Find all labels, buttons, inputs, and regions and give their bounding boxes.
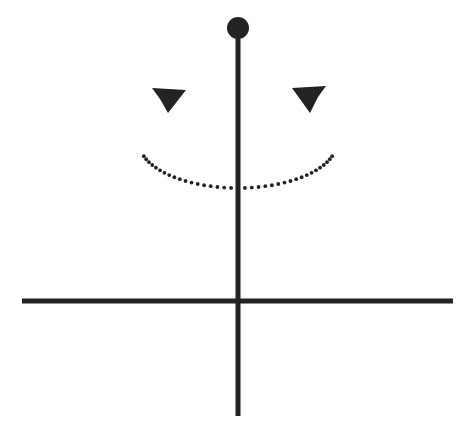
arc-dot <box>222 186 226 190</box>
arc-dot <box>209 184 213 188</box>
canvas-background <box>0 0 466 432</box>
arc-dot <box>178 177 182 181</box>
arc-dot <box>314 168 318 172</box>
bob-sphere <box>227 17 249 39</box>
arc-dot <box>322 163 326 167</box>
arc-dot <box>318 166 322 170</box>
arc-dot <box>144 157 148 161</box>
arc-dot <box>283 181 287 185</box>
arc-dot <box>154 166 158 170</box>
arc-dot <box>190 181 194 185</box>
arc-dot <box>196 182 200 186</box>
arc-dot <box>270 183 274 187</box>
arc-dot <box>216 185 220 189</box>
diagram-svg <box>0 0 466 432</box>
arc-dot <box>310 171 314 175</box>
arc-dot <box>250 186 254 190</box>
arc-dot <box>142 154 146 158</box>
arc-dot <box>158 168 162 172</box>
arc-dot <box>202 183 206 187</box>
arc-dot <box>167 173 171 177</box>
arc-dot <box>305 173 309 177</box>
arc-dot <box>289 179 293 183</box>
arc-dot <box>263 184 267 188</box>
arc-dot <box>257 185 261 189</box>
arc-dot <box>294 177 298 181</box>
arc-dot <box>300 175 304 179</box>
arc-dot <box>229 186 233 190</box>
arc-dot <box>163 171 167 175</box>
arc-dot <box>330 154 334 158</box>
arc-dot <box>328 157 332 161</box>
arc-dot <box>243 186 247 190</box>
arc-dot <box>325 160 329 164</box>
arc-dot <box>150 163 154 167</box>
arc-dot <box>172 175 176 179</box>
arc-dot <box>276 182 280 186</box>
arc-dot <box>184 179 188 183</box>
diagram-canvas <box>0 0 466 432</box>
arc-dot <box>147 160 151 164</box>
